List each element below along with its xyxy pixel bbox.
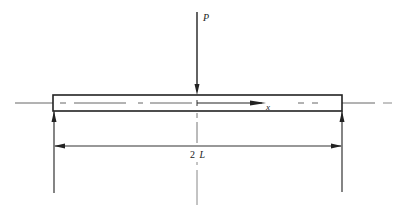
- load-arrow: [195, 12, 200, 95]
- left-support-reaction: [52, 111, 57, 193]
- span-dimension-label: 2 L: [190, 149, 206, 160]
- beam-diagram: x P 2 L: [0, 0, 405, 216]
- load-label: P: [202, 12, 209, 23]
- right-support-reaction: [340, 111, 345, 192]
- x-axis-label: x: [265, 102, 270, 112]
- span-dimension-line: [54, 144, 342, 149]
- x-axis-arrow: [197, 100, 266, 106]
